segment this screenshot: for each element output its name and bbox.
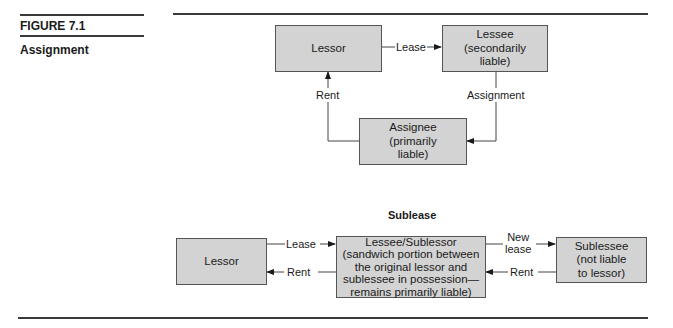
node-lessee-line-1: Lessee (464, 28, 526, 42)
node-lessee-line-3: liable) (464, 55, 526, 69)
node-sublessee: Sublessee (not liable to lessor) (556, 237, 647, 283)
node-sublessee-line-3: to lessor) (575, 267, 629, 281)
node-lessee-sublessor-line-3: the original lessor and (343, 261, 480, 274)
node-lessee-sublessor-line-2: (sandwich portion between (343, 248, 480, 261)
node-assignee: Assignee (primarily liable) (359, 118, 467, 165)
node-lessee-sublessor: Lessee/Sublessor (sandwich portion betwe… (336, 236, 486, 298)
edge-label-new-lease-line-1: New (505, 231, 531, 243)
node-sublessee-line-2: (not liable (575, 253, 629, 267)
node-lessor-label: Lessor (311, 42, 346, 56)
node-sublease-lessor: Lessor (176, 238, 267, 285)
edge-label-new-lease: New lease (505, 231, 531, 255)
sublease-title: Sublease (388, 209, 436, 221)
node-lessee-sublessor-line-4: sublessee in possession— (343, 273, 480, 286)
node-lessor: Lessor (275, 25, 382, 72)
edge-label-rent: Rent (316, 89, 339, 101)
edge-label-sublease-rent-left: Rent (287, 266, 310, 278)
node-assignee-line-2: (primarily (389, 135, 436, 149)
node-assignee-line-3: liable) (389, 148, 436, 162)
node-assignee-line-1: Assignee (389, 121, 436, 135)
node-sublease-lessor-label: Lessor (204, 255, 239, 269)
edge-label-new-lease-line-2: lease (505, 243, 531, 255)
edge-label-assignment: Assignment (467, 89, 524, 101)
node-lessee-line-2: (secondarily (464, 42, 526, 56)
node-lessee: Lessee (secondarily liable) (442, 25, 548, 72)
node-lessee-sublessor-line-1: Lessee/Sublessor (343, 236, 480, 249)
edge-label-lease: Lease (396, 41, 426, 53)
edge-label-sublease-rent-right: Rent (510, 266, 533, 278)
node-sublessee-line-1: Sublessee (575, 240, 629, 254)
node-lessee-sublessor-line-5: remains primarily liable) (343, 286, 480, 299)
edge-label-sublease-lease: Lease (286, 238, 316, 250)
